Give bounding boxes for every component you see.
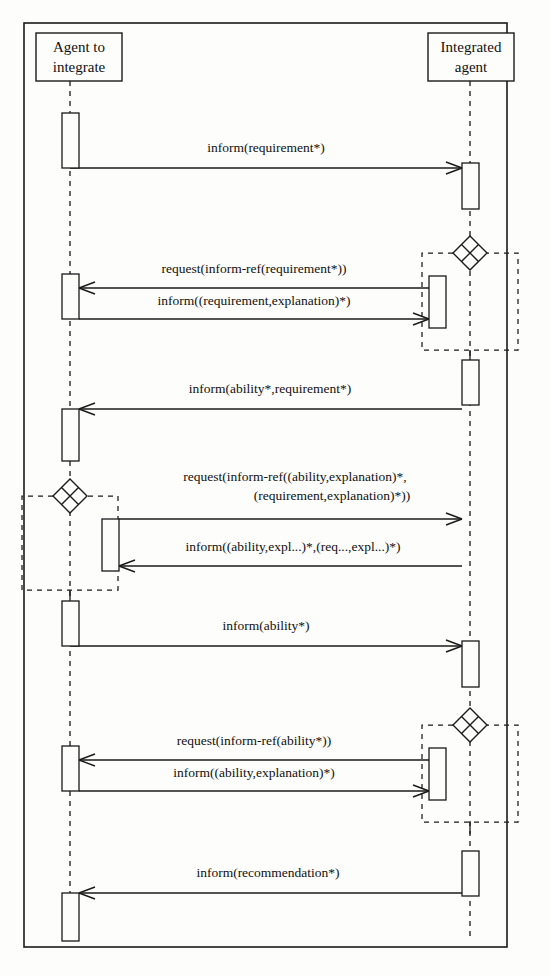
message-label-line2-msg-5: (requirement,explanation)*)) xyxy=(254,488,410,503)
activation-bar-act-left-5[interactable] xyxy=(62,601,79,646)
activation-bar-act-left-4-nested[interactable] xyxy=(102,519,119,571)
activation-bar-act-left-6[interactable] xyxy=(62,746,79,791)
sequence-diagram-canvas: Agent tointegrateIntegratedagentinform(r… xyxy=(0,0,550,976)
activation-bar-act-right-6[interactable] xyxy=(462,851,479,896)
lifeline-title-line2-integrated-agent: agent xyxy=(455,59,488,75)
activation-bar-act-right-2-nested[interactable] xyxy=(429,276,446,328)
activation-bar-act-left-1[interactable] xyxy=(62,113,79,168)
message-label-msg-7: inform(ability*) xyxy=(223,618,310,633)
message-label-msg-8: request(inform-ref(ability*)) xyxy=(177,733,331,748)
uml-sequence-diagram: Agent tointegrateIntegratedagentinform(r… xyxy=(0,0,550,976)
message-label-msg-9: inform((ability,explanation)*) xyxy=(173,765,334,780)
activation-bar-act-left-2[interactable] xyxy=(62,274,79,319)
activation-bar-act-right-4[interactable] xyxy=(462,641,479,687)
lifeline-title-line1-integrated-agent: Integrated xyxy=(441,39,502,55)
message-label-msg-2: request(inform-ref(requirement*)) xyxy=(161,261,346,276)
activation-bar-act-right-3[interactable] xyxy=(462,360,479,405)
activation-bar-act-left-7[interactable] xyxy=(62,893,79,941)
activation-bar-act-right-5-nested[interactable] xyxy=(429,748,446,800)
message-label-msg-5: request(inform-ref((ability,explanation)… xyxy=(183,469,406,484)
message-label-msg-1: inform(requirement*) xyxy=(207,140,325,155)
lifeline-title-line1-agent-to-integrate: Agent to xyxy=(53,39,105,55)
message-label-msg-3: inform((requirement,explanation)*) xyxy=(157,293,350,308)
lifeline-title-line2-agent-to-integrate: integrate xyxy=(53,59,106,75)
message-label-msg-10: inform(recommendation*) xyxy=(196,865,339,880)
message-label-msg-4: inform(ability*,requirement*) xyxy=(189,381,351,396)
message-label-msg-6: inform((ability,expl...)*,(req...,expl..… xyxy=(185,539,400,554)
activation-bar-act-left-3[interactable] xyxy=(62,409,79,461)
activation-bar-act-right-1[interactable] xyxy=(462,163,479,209)
